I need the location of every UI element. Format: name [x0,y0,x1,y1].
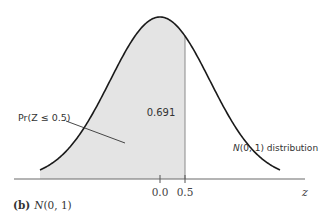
axis-label-z: z [301,186,308,199]
distribution-label: N(0, 1) distribution [233,143,318,153]
panel-caption: (b)N(0, 1) [13,199,72,211]
tick-label-0: 0.0 [152,186,169,198]
tick-label-0.5: 0.5 [177,186,194,198]
area-value-label: 0.691 [147,107,176,118]
probability-label: Pr(Z ≤ 0.5) [18,112,71,123]
normal-distribution-chart: 0.0 0.5 z 0.691 Pr(Z ≤ 0.5) N(0, 1) dist… [0,0,329,222]
